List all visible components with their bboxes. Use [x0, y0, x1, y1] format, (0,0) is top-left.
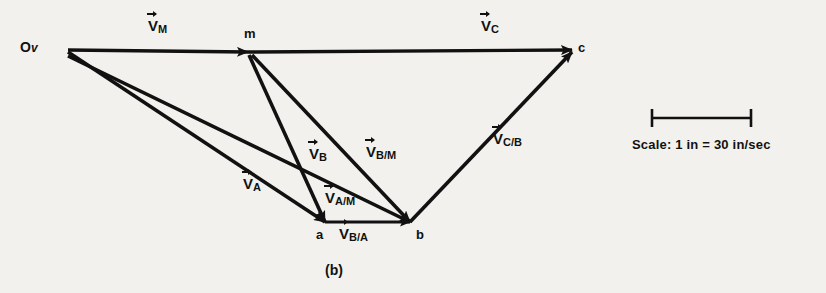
- vector-line-VCB: [410, 52, 572, 222]
- vector-line-VB: [68, 56, 410, 222]
- vector-label-VBM: VB/M: [366, 144, 396, 161]
- scale-bar: [651, 109, 752, 127]
- vector-label-VC: VC: [481, 18, 499, 35]
- vba-subscript: B/A: [349, 231, 368, 243]
- vbm-subscript: B/M: [376, 149, 396, 161]
- vc-subscript: C: [491, 23, 499, 35]
- vector-line-VC: [248, 50, 572, 52]
- vb-subscript: B: [319, 151, 327, 163]
- vm-symbol: V: [148, 17, 158, 34]
- va-symbol: V: [243, 175, 253, 192]
- vc-symbol: V: [481, 17, 491, 34]
- vb-symbol: V: [309, 145, 319, 162]
- scale-caption: Scale: 1 in = 30 in/sec: [632, 138, 771, 151]
- vector-label-VB: VB: [309, 146, 327, 163]
- vba-symbol: V: [339, 225, 349, 242]
- point-label-b: b: [416, 228, 424, 241]
- va-subscript: A: [253, 181, 261, 193]
- vcb-symbol: V: [493, 130, 503, 147]
- vam-subscript: A/M: [335, 195, 355, 207]
- vector-label-VM: VM: [148, 18, 167, 35]
- vector-label-VBA: VB/A: [339, 226, 368, 243]
- vector-label-VCB: VC/B: [493, 131, 522, 148]
- point-label-origin: Ov: [20, 40, 38, 54]
- vam-symbol: V: [325, 189, 335, 206]
- origin-letter: O: [20, 39, 31, 55]
- vcb-subscript: C/B: [503, 136, 522, 148]
- vector-line-VM: [68, 50, 248, 52]
- vector-label-VA: VA: [243, 176, 261, 193]
- point-label-c: c: [578, 41, 585, 54]
- vbm-symbol: V: [366, 143, 376, 160]
- figure-canvas: Ov m c a b VM VC VA VB VA/M VB/M VB/A VC…: [0, 0, 826, 293]
- point-label-m: m: [244, 27, 256, 40]
- vm-subscript: M: [158, 23, 167, 35]
- vector-label-VAM: VA/M: [325, 190, 355, 207]
- figure-caption: (b): [325, 263, 343, 277]
- origin-subscript: v: [31, 41, 38, 55]
- point-label-a: a: [316, 228, 323, 241]
